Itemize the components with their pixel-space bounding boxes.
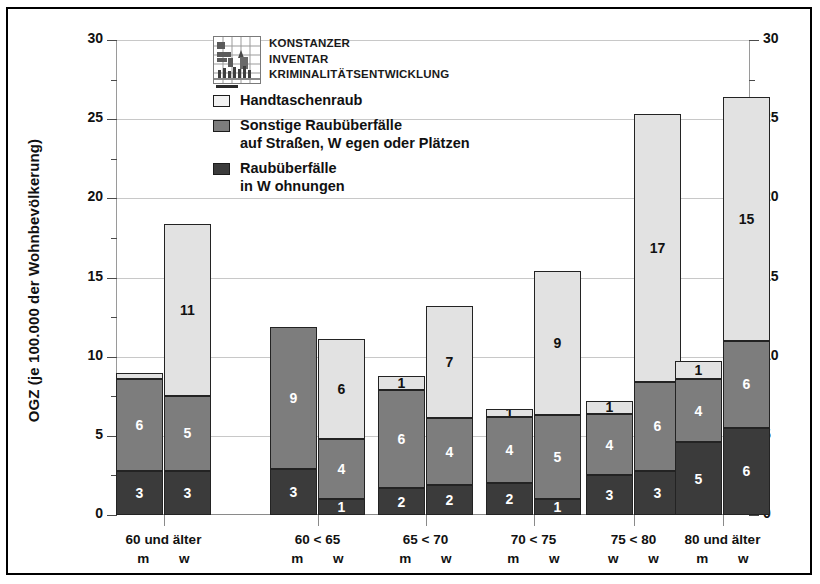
legend-item-sonstige-raubueberfaelle[interactable]: Sonstige Raubüberfälle auf Straßen, W eg… (213, 116, 473, 152)
stacked-bar[interactable]: 36 (116, 373, 163, 516)
bar-segment-sonstige[interactable]: 5 (534, 415, 581, 499)
stacked-bar[interactable]: 247 (426, 306, 473, 515)
bar-segment-sonstige[interactable]: 4 (318, 439, 365, 499)
y-axis-tick-label-left: 25 (63, 109, 103, 125)
bar-segment-value: 5 (554, 450, 562, 464)
stacked-bar[interactable]: 6615 (723, 97, 770, 515)
x-axis-group-tick (534, 515, 535, 526)
bar-segment-handtasche[interactable]: 15 (723, 97, 770, 341)
x-axis-group-label: 60 und älterm w (84, 532, 244, 566)
y-axis-tick-right (749, 40, 759, 41)
y-axis-tick-label-left: 10 (63, 347, 103, 363)
bar-segment-value: 6 (338, 382, 346, 396)
bar-segment-wohnung[interactable]: 3 (634, 471, 681, 515)
bar-segment-wohnung[interactable]: 1 (318, 499, 365, 515)
y-axis-tick-left (107, 515, 117, 516)
bar-segment-handtasche[interactable]: 7 (426, 306, 473, 418)
bar-segment-wohnung[interactable]: 2 (378, 488, 425, 515)
bar-segment-wohnung[interactable]: 5 (675, 442, 722, 515)
y-axis-title: OGZ (je 100.000 der Wohnbevölkerung) (25, 61, 42, 501)
bar-segment-wohnung[interactable]: 6 (723, 428, 770, 515)
kik-line-3: KRIMINALITÄTSENTWICKLUNG (269, 67, 449, 83)
bar-segment-value: 2 (446, 493, 454, 507)
bar-segment-sonstige[interactable]: 6 (378, 390, 425, 488)
legend-swatch-handtaschenraub (213, 95, 230, 107)
bar-segment-wohnung[interactable]: 2 (426, 485, 473, 515)
stacked-bar[interactable]: 261 (378, 376, 425, 515)
logo-underline (216, 85, 238, 88)
bar-segment-wohnung[interactable]: 2 (486, 483, 533, 515)
bar-segment-value: 3 (606, 488, 614, 502)
stacked-bar[interactable]: 541 (675, 361, 722, 515)
bar-segment-value: 2 (506, 492, 514, 506)
bar-segment-sonstige[interactable]: 4 (586, 414, 633, 476)
bar-segment-value: 3 (654, 486, 662, 500)
y-axis-tick-left (107, 40, 117, 41)
bar-segment-handtasche[interactable]: 1 (586, 401, 633, 414)
y-axis-tick-left (107, 278, 117, 279)
bar-segment-value: 5 (184, 426, 192, 440)
bar-segment-value: 1 (506, 409, 514, 417)
x-axis-group-label: 80 und älterm w (643, 532, 803, 566)
x-axis-group-tick (318, 515, 319, 526)
x-axis-group-tick (164, 515, 165, 526)
x-axis-group-range: 60 und älter (84, 532, 244, 547)
legend-label-sonstige-raubueberfaelle: Sonstige Raubüberfälle auf Straßen, W eg… (240, 116, 470, 152)
stacked-bar[interactable]: 39 (270, 327, 317, 515)
bar-segment-handtasche[interactable]: 9 (534, 271, 581, 415)
bar-segment-sonstige[interactable]: 5 (164, 396, 211, 470)
kik-logo-row: KONSTANZER INVENTAR KRIMINALITÄTSENTWICK… (213, 36, 473, 84)
y-axis-tick-label-right: 30 (763, 30, 803, 46)
bar-segment-wohnung[interactable]: 3 (586, 475, 633, 515)
bar-segment-sonstige[interactable]: 6 (634, 382, 681, 471)
bar-segment-handtasche[interactable]: 17 (634, 114, 681, 382)
bar-segment-sonstige[interactable]: 4 (426, 418, 473, 485)
bar-segment-value: 1 (695, 363, 703, 377)
stacked-bar[interactable]: 146 (318, 339, 365, 515)
y-axis-minor-tick-left (111, 159, 117, 160)
stacked-bar[interactable]: 3617 (634, 114, 681, 515)
bar-segment-wohnung[interactable]: 1 (534, 499, 581, 515)
legend-label-line-2: auf Straßen, W egen oder Plätzen (240, 134, 470, 152)
bar-segment-value: 3 (184, 486, 192, 500)
bar-segment-value: 4 (338, 462, 346, 476)
stacked-bar[interactable]: 3511 (164, 224, 211, 515)
legend-item-handtaschenraub[interactable]: Handtaschenraub (213, 91, 473, 109)
stacked-bar[interactable]: 341 (586, 401, 633, 515)
legend-label-line-1: Raubüberfälle (240, 160, 337, 176)
bar-segment-wohnung[interactable]: 3 (164, 471, 211, 515)
y-axis-tick-right (749, 515, 759, 516)
bar-segment-sonstige[interactable]: 4 (675, 379, 722, 442)
bar-segment-handtasche[interactable]: 1 (486, 409, 533, 417)
legend-swatch-raubueberfaelle-wohnungen (213, 163, 230, 175)
bar-segment-value: 7 (446, 355, 454, 369)
bar-segment-wohnung[interactable]: 3 (270, 469, 317, 515)
bar-segment-handtasche[interactable]: 11 (164, 224, 211, 397)
bar-segment-value: 17 (650, 241, 666, 255)
bar-segment-handtasche[interactable] (116, 373, 163, 379)
bar-segment-value: 6 (743, 377, 751, 391)
bar-segment-value: 11 (180, 303, 195, 317)
bar-segment-sonstige[interactable]: 9 (270, 327, 317, 470)
bar-segment-handtasche[interactable]: 1 (378, 376, 425, 390)
stacked-bar[interactable]: 241 (486, 409, 533, 515)
y-axis-tick-label-left: 15 (63, 268, 103, 284)
legend-swatch-sonstige-raubueberfaelle (213, 120, 230, 132)
bar-segment-sonstige[interactable]: 6 (116, 379, 163, 471)
chart-page: OGZ (je 100.000 der Wohnbevölkerung) 005… (0, 0, 820, 584)
bar-segment-value: 1 (398, 376, 406, 390)
y-axis-tick-label-left: 0 (63, 505, 103, 521)
bar-segment-sonstige[interactable]: 6 (723, 341, 770, 428)
bar-segment-handtasche[interactable]: 1 (675, 361, 722, 378)
kik-line-2: INVENTAR (269, 52, 449, 68)
legend-item-raubueberfaelle-wohnungen[interactable]: Raubüberfälle in W ohnungen (213, 159, 473, 195)
legend-label-handtaschenraub: Handtaschenraub (240, 91, 362, 109)
bar-segment-wohnung[interactable]: 3 (116, 471, 163, 515)
bar-segment-value: 9 (554, 336, 562, 350)
bar-segment-value: 1 (554, 500, 562, 514)
bar-segment-handtasche[interactable]: 6 (318, 339, 365, 439)
stacked-bar[interactable]: 159 (534, 271, 581, 515)
bar-segment-sonstige[interactable]: 4 (486, 417, 533, 484)
x-axis-group-sexes: m w (643, 551, 803, 566)
bar-segment-value: 2 (398, 495, 406, 509)
